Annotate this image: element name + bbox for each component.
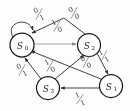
- state-node-s3[interactable]: S 3: [37, 77, 60, 100]
- state-label-s0: S: [17, 41, 23, 51]
- fsm-diagram: S 0 S 2 S 3 S 1 0 1: [0, 0, 130, 111]
- state-sublabel-s3: 3: [50, 88, 54, 94]
- transition-label-s3-s2: 1 0: [41, 56, 59, 76]
- transition-label-s3-s0: 0 1: [13, 60, 31, 80]
- fsm-canvas: S 0 S 2 S 3 S 1 0 1: [0, 0, 130, 111]
- transition-output: 1: [103, 55, 111, 64]
- state-sublabel-s2: 2: [91, 45, 95, 51]
- transition-label-s1-s3: 1 1: [72, 90, 88, 110]
- state-label-s1: S: [106, 82, 112, 92]
- state-label-s2: S: [84, 41, 90, 51]
- transition-output: 1: [79, 99, 86, 108]
- transition-output: 1: [38, 13, 46, 22]
- state-sublabel-s0: 0: [25, 45, 29, 51]
- transition-output: 0: [73, 12, 81, 21]
- transition-label-self-loop: 0 1: [30, 4, 48, 24]
- state-node-s1[interactable]: S 1: [100, 75, 123, 98]
- transition-output: 0: [49, 65, 57, 74]
- state-sublabel-s1: 1: [113, 86, 117, 92]
- state-node-s0[interactable]: S 0: [10, 33, 34, 57]
- transition-output: 0: [56, 25, 64, 34]
- transition-output: 0: [85, 61, 93, 70]
- transition-label-s0-s2: 1 0: [48, 16, 66, 36]
- transition-output: 1: [21, 69, 29, 78]
- state-label-s3: S: [43, 84, 49, 94]
- state-node-s2[interactable]: S 2: [78, 34, 101, 57]
- transition-label-s2-s1: 1 1: [95, 46, 113, 66]
- transition-label-s2-s0: 0 0: [65, 3, 83, 23]
